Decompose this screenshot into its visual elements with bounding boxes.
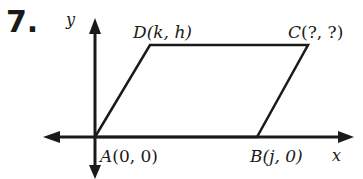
x-axis-right-arrow-icon [338, 131, 354, 143]
x-axis-left-arrow-icon [43, 131, 60, 143]
point-label-a: A(0, 0) [100, 146, 158, 166]
y-axis-up-arrow-icon [89, 18, 101, 34]
point-label-c: C(?, ?) [288, 22, 343, 42]
y-axis-down-arrow-icon [89, 165, 101, 179]
parallelogram [95, 45, 308, 137]
point-label-b: B(j, 0) [250, 146, 303, 166]
y-axis-label: y [66, 10, 75, 30]
x-axis-label: x [332, 146, 341, 166]
point-label-d: D(k, h) [133, 22, 192, 42]
